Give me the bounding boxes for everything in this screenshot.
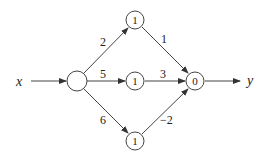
node-hidden-bottom-value: 1: [132, 135, 138, 147]
node-hidden-middle: 1: [126, 72, 144, 90]
weight-bottom-output: −2: [160, 113, 173, 127]
weight-middle-output: 3: [160, 67, 166, 81]
edge-input-bottom: [84, 89, 128, 133]
node-output-value: 0: [192, 75, 198, 87]
weight-input-middle: 5: [100, 67, 106, 81]
node-input: [67, 71, 87, 91]
weight-input-top: 2: [100, 35, 106, 49]
network-diagram: 2 5 6 1 3 −2 x y 1 1 1 0: [0, 0, 269, 160]
input-variable-x: x: [15, 74, 23, 89]
node-hidden-bottom: 1: [126, 132, 144, 150]
node-hidden-top: 1: [126, 11, 144, 29]
output-variable-y: y: [245, 73, 254, 88]
weight-input-bottom: 6: [100, 113, 106, 127]
edge-bottom-output: [142, 89, 188, 134]
edge-input-top: [84, 28, 128, 73]
node-hidden-middle-value: 1: [132, 75, 138, 87]
weight-top-output: 1: [161, 32, 167, 46]
node-hidden-top-value: 1: [132, 14, 138, 26]
node-output: 0: [186, 72, 204, 90]
